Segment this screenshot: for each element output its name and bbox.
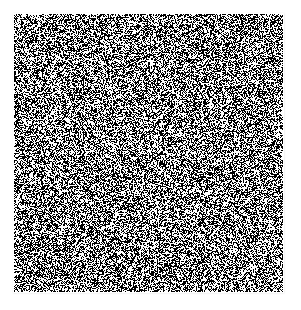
noise-texture-canvas: [14, 14, 283, 292]
figure-root: [0, 0, 301, 310]
